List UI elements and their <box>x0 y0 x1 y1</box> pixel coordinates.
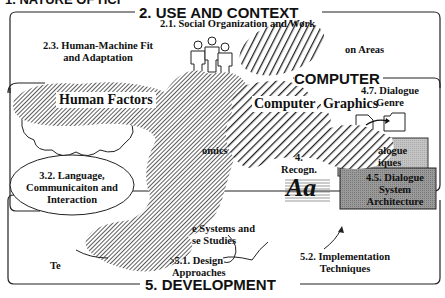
dialogue-genre-label: 4.7. Dialogue Genre <box>355 85 425 109</box>
nature-header: 1. NATURE OF HCI <box>2 0 123 7</box>
computer-header: COMPUTER <box>294 71 383 86</box>
computer-graphics-label: Computer Graphics <box>252 96 312 112</box>
ergonomics-label: omics <box>202 145 228 157</box>
social-organization-label: 2.1. Social Organization and Work <box>160 18 315 30</box>
development-header: 5. DEVELOPMENT <box>142 277 279 292</box>
language-communication-label: 3.2. Language, Communicaiton and Interac… <box>22 170 122 206</box>
dialogue-techniques-label: alogue iques <box>378 145 407 169</box>
recognition-glyph-icon: Aa <box>286 174 316 202</box>
dialogue-architecture-label: 4.5. Dialogue System Architecture <box>355 172 435 208</box>
application-areas-label: on Areas <box>345 44 384 56</box>
implementation-techniques-label: 5.2. Implementation Techniques <box>300 251 390 275</box>
systems-case-studies-label: e Systems and se Studies <box>192 223 255 247</box>
human-machine-fit-label: 2.3. Human-Machine Fit and Adaptation <box>38 40 158 64</box>
design-approaches-label: 5.1. Design Approaches <box>172 255 225 279</box>
development-partial-label: Te <box>50 260 61 272</box>
human-factors-label: Human Factors <box>56 92 156 108</box>
